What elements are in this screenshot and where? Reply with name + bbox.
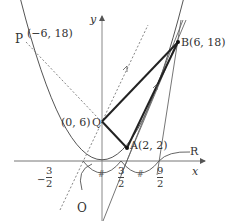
- equal-mark-right: #: [137, 170, 144, 179]
- tick-neg-three-halves: − 3 2: [46, 166, 52, 189]
- numerator: 3: [46, 166, 52, 176]
- tick-nine-halves: 9 2: [157, 166, 163, 189]
- denominator: 2: [46, 179, 52, 189]
- x-axis-label: x: [192, 166, 198, 177]
- point-b-label: B(6, 18): [181, 37, 226, 48]
- equal-mark-left: #: [98, 170, 105, 179]
- segment-ab: [127, 42, 178, 148]
- arc-r-pointer: [159, 152, 190, 161]
- point-o-label: O: [77, 202, 87, 214]
- segment-qa: [102, 122, 127, 149]
- math-diagram: # # y x P (−6, 18) B(6, 18) (0, 6) Q A(2…: [0, 0, 239, 221]
- point-p-name: P: [15, 33, 23, 45]
- segment-qb: [102, 42, 178, 122]
- point-r-label: R: [190, 146, 198, 157]
- denominator: 2: [157, 179, 163, 189]
- point-a-dot: [125, 146, 129, 150]
- minus-sign: −: [37, 175, 45, 185]
- point-q-name: Q: [92, 117, 101, 128]
- denominator: 2: [118, 179, 124, 189]
- point-a-label: A(2, 2): [130, 140, 168, 151]
- numerator: 3: [118, 166, 124, 176]
- numerator: 9: [157, 166, 163, 176]
- point-q-coord: (0, 6): [61, 117, 91, 128]
- tick-three-halves: 3 2: [118, 166, 124, 189]
- dashed-line-pq: [26, 42, 98, 118]
- point-p-coord: (−6, 18): [27, 28, 73, 39]
- y-axis-label: y: [90, 14, 96, 25]
- point-b-dot: [176, 40, 180, 44]
